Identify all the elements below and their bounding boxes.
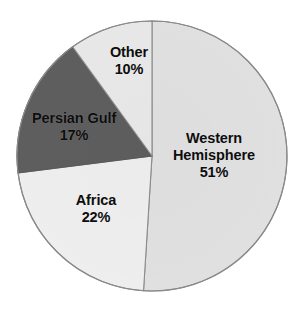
pie-slice-africa[interactable] bbox=[18, 156, 152, 291]
pie-chart-figure: Western Hemisphere 51% Africa 22% Persia… bbox=[0, 0, 297, 311]
pie-slice-western-hemisphere[interactable] bbox=[144, 21, 288, 291]
pie-chart-svg bbox=[0, 0, 297, 311]
